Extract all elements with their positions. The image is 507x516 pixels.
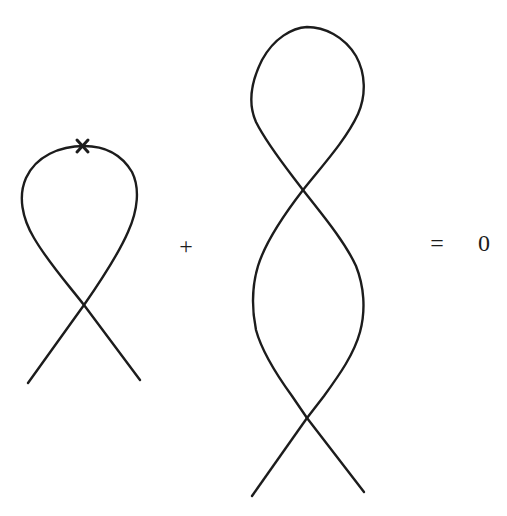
left-loop-strand-a	[28, 146, 137, 383]
single-twist-loop	[22, 140, 140, 383]
right-leg-right	[307, 418, 364, 492]
right-top-loop	[251, 27, 364, 190]
right-middle-left	[253, 190, 307, 418]
plus-operator: +	[179, 234, 193, 258]
left-loop-strand-b	[22, 146, 140, 380]
right-middle-right	[303, 190, 363, 418]
double-twist-loop	[251, 27, 364, 496]
right-leg-left	[252, 418, 307, 496]
equals-operator: =	[430, 231, 444, 255]
diagram-canvas	[0, 0, 507, 516]
result-value: 0	[478, 231, 490, 255]
